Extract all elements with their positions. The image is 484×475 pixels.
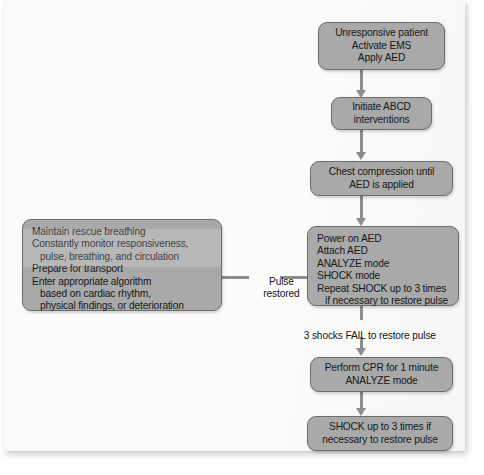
arrow-chest-to-power — [356, 218, 366, 226]
node-shock-up-to-3-times-text: SHOCK up to 3 times if necessary to rest… — [314, 421, 446, 446]
node-initiate-abcd[interactable]: Initiate ABCD interventions — [331, 97, 432, 130]
connector-pulse-restored-left — [222, 276, 249, 279]
connector-chest-to-power — [360, 196, 363, 220]
node-maintain-rescue-breathing[interactable]: Maintain rescue breathing Constantly mon… — [22, 219, 222, 311]
node-unresponsive-patient-text: Unresponsive patient Activate EMS Apply … — [325, 27, 438, 64]
node-perform-cpr-text: Perform CPR for 1 minute ANALYZE mode — [317, 362, 446, 387]
node-chest-compression[interactable]: Chest compression until AED is applied — [310, 161, 453, 196]
node-maintain-rescue-breathing-text: Maintain rescue breathing Constantly mon… — [32, 226, 213, 313]
arrow-abcd-to-chest — [356, 152, 366, 160]
node-shock-up-to-3-times[interactable]: SHOCK up to 3 times if necessary to rest… — [307, 416, 453, 451]
arrow-cpr-to-shock — [356, 408, 366, 416]
node-chest-compression-text: Chest compression until AED is applied — [317, 166, 446, 191]
node-power-on-aed-text: Power on AED Attach AED ANALYZE mode SHO… — [317, 233, 450, 307]
node-perform-cpr[interactable]: Perform CPR for 1 minute ANALYZE mode — [310, 357, 453, 392]
connector-abcd-to-chest — [360, 130, 363, 154]
edge-label-pulse-restored: Pulse restored — [246, 264, 306, 313]
node-power-on-aed[interactable]: Power on AED Attach AED ANALYZE mode SHO… — [307, 226, 459, 306]
edge-label-3-shocks-fail: 3 shocks FAIL to restore pulse — [293, 318, 469, 355]
node-unresponsive-patient[interactable]: Unresponsive patient Activate EMS Apply … — [318, 22, 445, 70]
flowchart-canvas: Unresponsive patient Activate EMS Apply … — [0, 0, 484, 475]
connector-unresponsive-to-abcd — [360, 70, 363, 92]
node-initiate-abcd-text: Initiate ABCD interventions — [338, 101, 425, 126]
